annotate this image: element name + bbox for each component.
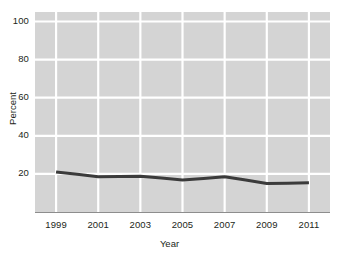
x-tick-label-2001: 2001: [78, 219, 118, 230]
y-axis-title: Percent: [7, 81, 18, 137]
x-tick-label-1999: 1999: [36, 219, 76, 230]
line-chart: 100 80 60 40 20 1999 2001 2003 2005 2007…: [0, 0, 339, 260]
y-tick-label-20: 20: [5, 167, 29, 178]
x-tick-label-2007: 2007: [205, 219, 245, 230]
x-axis-title: Year: [0, 238, 339, 249]
x-tick-label-2011: 2011: [289, 219, 329, 230]
y-tick-label-100: 100: [5, 15, 29, 26]
x-tick-label-2003: 2003: [120, 219, 160, 230]
y-tick-label-80: 80: [5, 53, 29, 64]
x-tick-label-2005: 2005: [163, 219, 203, 230]
x-tick-label-2009: 2009: [247, 219, 287, 230]
